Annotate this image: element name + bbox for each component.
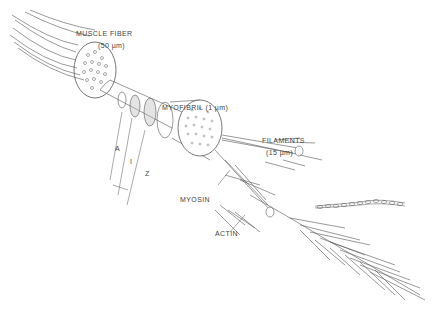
- actin-helix-chain: [315, 200, 405, 209]
- myofibril-label: MYOFIBRIL (1 µm): [162, 104, 228, 111]
- actin-label: ACTIN: [215, 230, 238, 237]
- muscle-fiber-size-label: (50 µm): [98, 42, 125, 49]
- muscle-fiber-label: MUSCLE FIBER: [76, 30, 133, 37]
- myosin-label: MYOSIN: [180, 196, 210, 203]
- filaments-size-label: (15 µm): [266, 149, 293, 156]
- band-leaders: [110, 112, 145, 205]
- filament-bundle-2: [215, 150, 285, 217]
- muscle-fiber-strands: [10, 10, 95, 80]
- muscle-fiber-myofibrils: [83, 51, 108, 90]
- filaments-label: FILAMENTS: [262, 137, 305, 144]
- band-a-label: A: [115, 145, 120, 152]
- filament-branches: [285, 215, 425, 300]
- myosin-leader: [218, 170, 230, 185]
- muscle-diagram: [0, 0, 444, 312]
- band-i-label: I: [130, 158, 132, 165]
- band-z-label: Z: [145, 170, 150, 177]
